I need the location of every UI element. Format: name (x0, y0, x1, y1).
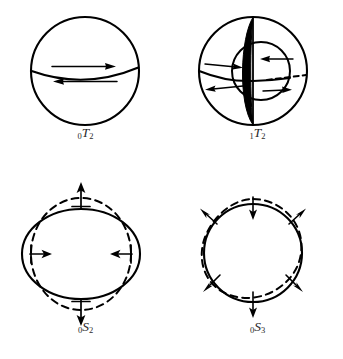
outer-upper-arrow-shaft (205, 64, 236, 67)
normal-modes-figure: 0T2 (0, 0, 343, 359)
panel-mode-0T2: 0T2 (0, 0, 171, 179)
mode-label-0S2: 0S2 (0, 320, 171, 335)
mode-symbol: S (254, 319, 261, 334)
inner-lower-arrow-head (282, 87, 292, 94)
mode-symbol: S (82, 319, 89, 334)
panel-mode-0S3: 0S3 (172, 180, 343, 359)
upper-hemisphere-arrow-head (105, 63, 116, 70)
lower-hemisphere-arrow-head (53, 78, 64, 85)
angular-order: 2 (261, 131, 265, 141)
inner-circle (232, 42, 290, 100)
angular-order: 2 (89, 131, 93, 141)
diagram-0S3 (172, 180, 343, 340)
diagram-0T2 (0, 0, 171, 145)
mode-label-1T2: 1T2 (172, 126, 343, 141)
mode-label-0T2: 0T2 (0, 126, 171, 141)
mode-label-0S3: 0S3 (172, 320, 343, 335)
black-lune-nodal-surface (242, 17, 253, 125)
equator-curve (32, 68, 139, 80)
angular-order: 3 (261, 325, 265, 335)
inner-lower-arrow-shaft (263, 90, 285, 91)
diagram-1T2 (172, 0, 343, 145)
angular-order: 2 (89, 325, 93, 335)
diagram-0S2 (0, 180, 171, 340)
panel-mode-1T2: 1T2 (172, 0, 343, 179)
inner-upper-arrow-head (260, 56, 270, 63)
sphere-outline (31, 17, 139, 125)
panel-mode-0S2: 0S2 (0, 180, 171, 359)
